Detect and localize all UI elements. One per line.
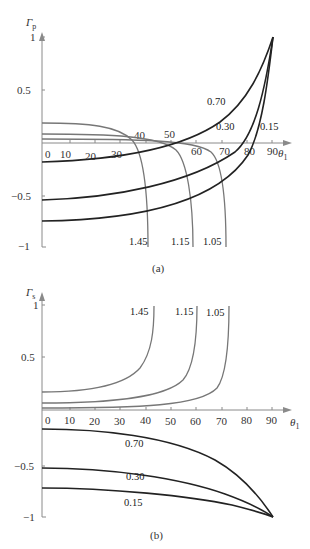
curve-a-0.30	[42, 37, 273, 200]
curve-label-1.05: 1.05	[206, 307, 224, 318]
curve-label-1.15: 1.15	[175, 306, 193, 317]
y-axis-label-a: Γp	[25, 16, 36, 31]
x-tick: 90	[267, 145, 279, 157]
y-tick-1: 1	[33, 299, 39, 311]
curve-label-0.30: 0.30	[216, 121, 234, 132]
x-tick: 50	[164, 128, 176, 140]
curve-label-1.45: 1.45	[129, 236, 147, 247]
y-tick-neg-1: −1	[18, 240, 30, 252]
curve-label-1.15: 1.15	[171, 236, 189, 247]
x-tick: 80	[241, 414, 253, 426]
figure: Γp 1 0.5 −0.5 −1 0 10 20 30 40 50 60 70 …	[0, 0, 310, 549]
y-axis-arrow-icon	[39, 292, 45, 301]
curve-a-0.15	[42, 37, 273, 221]
curve-label-0.70: 0.70	[207, 96, 225, 107]
curve-label-1.45: 1.45	[130, 306, 148, 317]
x-tick: 20	[89, 415, 101, 427]
x-axis-label-a: θ1	[278, 147, 287, 162]
y-tick-neg-0.5: −0.5	[14, 460, 34, 472]
caption-a: (a)	[152, 262, 165, 275]
caption-b: (b)	[150, 529, 163, 542]
x-tick: 0	[45, 148, 51, 160]
x-tick: 60	[190, 415, 202, 427]
x-axis-arrow-icon	[283, 407, 292, 413]
y-tick-neg-0.5: −0.5	[11, 190, 31, 202]
curve-b-1.15	[42, 306, 197, 403]
x-tick: 50	[165, 415, 177, 427]
x-axis-arrow-icon	[283, 140, 292, 146]
curve-label-0.15: 0.15	[260, 121, 278, 132]
y-tick-neg-1: −1	[23, 511, 35, 523]
y-tick-0.5: 0.5	[21, 351, 35, 363]
x-axis-label-b: θ1	[290, 416, 299, 431]
curve-b-1.05	[42, 306, 229, 408]
curve-b-0.70	[42, 429, 273, 517]
x-tick: 30	[111, 148, 123, 160]
x-tick: 70	[216, 415, 228, 427]
x-tick: 30	[114, 415, 126, 427]
x-tick: 10	[64, 414, 76, 426]
curve-b-0.30	[42, 468, 273, 517]
x-tick: 0	[45, 414, 51, 426]
panel-b: Γs 1 0.5 −0.5 −1 0 10 20 30 40 50 60 70 …	[14, 286, 299, 542]
y-tick-0.5: 0.5	[17, 84, 31, 96]
curve-label-0.15: 0.15	[124, 497, 142, 508]
curve-label-0.70: 0.70	[125, 438, 143, 449]
curve-b-0.15	[42, 488, 273, 517]
x-tick: 10	[60, 148, 72, 160]
x-tick: 90	[266, 414, 278, 426]
curve-b-1.45	[42, 306, 154, 392]
curve-label-1.05: 1.05	[203, 236, 221, 247]
y-tick-1: 1	[30, 31, 36, 43]
panel-a: Γp 1 0.5 −0.5 −1 0 10 20 30 40 50 60 70 …	[11, 16, 292, 275]
curve-label-0.30: 0.30	[126, 471, 144, 482]
x-tick: 40	[140, 414, 152, 426]
